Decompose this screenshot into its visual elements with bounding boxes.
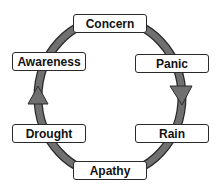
node-rain: Rain (135, 124, 209, 143)
node-apathy: Apathy (73, 161, 147, 180)
node-drought: Drought (12, 124, 86, 143)
node-concern: Concern (73, 14, 147, 33)
node-panic: Panic (135, 54, 209, 73)
arrowhead-down (170, 86, 192, 105)
arrowhead-up (28, 86, 48, 104)
node-awareness: Awareness (12, 52, 86, 71)
